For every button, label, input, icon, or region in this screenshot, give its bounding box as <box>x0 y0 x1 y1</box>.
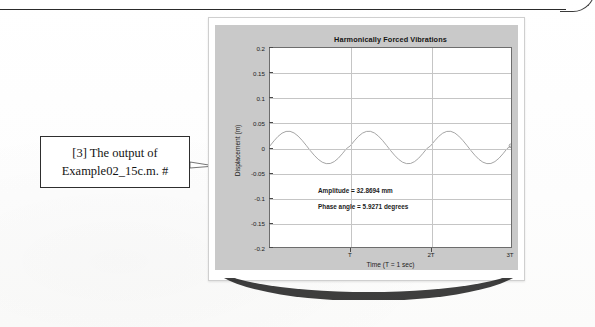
y-tick-label: -0.1 <box>237 195 265 202</box>
y-tick-mark <box>269 97 273 98</box>
gridline-horizontal <box>270 98 511 99</box>
x-axis-label: Time (T = 1 sec) <box>269 261 512 268</box>
gridline-horizontal <box>270 73 511 74</box>
figure-image: Harmonically Forced Vibrations Amplitude… <box>208 17 525 281</box>
gridline-horizontal <box>270 224 511 225</box>
displacement-curve <box>270 48 511 247</box>
y-tick-label: 0 <box>237 145 265 152</box>
callout-line-1: [3] The output of <box>72 144 158 162</box>
gridline-horizontal <box>270 149 511 150</box>
y-tick-mark <box>269 47 273 48</box>
y-tick-mark <box>269 223 273 224</box>
gridline-horizontal <box>270 199 511 200</box>
x-tick-mark <box>350 248 351 252</box>
chart-title: Harmonically Forced Vibrations <box>269 35 512 44</box>
page-edge-shadow <box>214 278 523 300</box>
y-tick-label: 0.05 <box>237 119 265 126</box>
x-tick-mark <box>431 248 432 252</box>
y-tick-mark <box>269 148 273 149</box>
x-axis-ticks: T 2T 3T <box>269 251 512 261</box>
annotation-amplitude: Amplitude = 32.8694 mm <box>318 187 393 194</box>
y-tick-label: 0.2 <box>237 44 265 51</box>
y-tick-mark <box>269 198 273 199</box>
y-tick-label: -0.15 <box>237 220 265 227</box>
gridline-vertical <box>351 48 352 247</box>
y-tick-label: 0.15 <box>237 69 265 76</box>
callout-line-2: Example02_15c.m. # <box>62 162 169 180</box>
y-tick-label: 0.1 <box>237 94 265 101</box>
gridline-horizontal <box>270 123 511 124</box>
annotation-phase-angle: Phase angle = 5.9271 degrees <box>318 203 408 210</box>
page-top-rule <box>0 9 566 10</box>
y-tick-mark <box>269 173 273 174</box>
x-tick-label: 2T <box>413 251 449 258</box>
y-axis-label: Displacement (m) <box>234 91 241 211</box>
x-tick-label: T <box>332 251 368 258</box>
matlab-figure-background: Harmonically Forced Vibrations Amplitude… <box>215 25 518 270</box>
callout-note: [3] The output of Example02_15c.m. # <box>40 136 190 188</box>
y-tick-mark <box>269 122 273 123</box>
y-tick-label: -0.2 <box>237 244 265 251</box>
y-tick-mark <box>269 72 273 73</box>
gridline-horizontal <box>270 174 511 175</box>
gridline-vertical <box>432 48 433 247</box>
x-tick-label: 3T <box>492 251 528 258</box>
y-tick-label: -0.05 <box>237 170 265 177</box>
y-tick-mark <box>269 247 273 248</box>
chart-plot-area: Amplitude = 32.8694 mm Phase angle = 5.9… <box>269 47 512 248</box>
